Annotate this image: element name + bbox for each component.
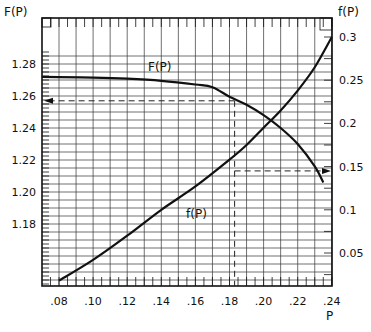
x-tick-label: .08 <box>50 295 68 308</box>
right-axis-tick-labels: 0.30.250.20.150.10.05 <box>339 31 364 260</box>
left-axis-tick-labels: 1.281.261.241.221.201.18 <box>12 58 37 231</box>
x-tick-label: .20 <box>255 295 273 308</box>
right-tick-label: 0.3 <box>339 31 357 44</box>
x-tick-label: .18 <box>221 295 239 308</box>
x-tick-label: .10 <box>84 295 102 308</box>
x-axis-tick-labels: .08.10.12.14.16.18.20.22.24 <box>50 295 340 308</box>
x-tick-label: .24 <box>323 295 341 308</box>
right-axis-title: f(P) <box>338 5 359 19</box>
x-tick-label: .14 <box>153 295 171 308</box>
left-axis-title: F(P) <box>4 5 28 19</box>
right-tick-label: 0.1 <box>339 204 357 217</box>
chart: .08.10.12.14.16.18.20.22.24 1.281.261.24… <box>0 0 371 332</box>
grid-lines <box>42 18 332 286</box>
x-tick-label: .22 <box>289 295 307 308</box>
x-axis-title: P <box>326 309 333 323</box>
left-tick-label: 1.24 <box>12 122 37 135</box>
right-tick-label: 0.25 <box>339 74 364 87</box>
series-F-label: F(P) <box>148 60 172 74</box>
x-tick-label: .16 <box>187 295 205 308</box>
right-tick-label: 0.2 <box>339 117 357 130</box>
x-tick-label: .12 <box>118 295 136 308</box>
left-tick-label: 1.20 <box>12 186 37 199</box>
series-f-label: f(P) <box>186 207 207 221</box>
right-tick-label: 0.05 <box>339 247 364 260</box>
left-tick-label: 1.26 <box>12 90 37 103</box>
right-tick-label: 0.15 <box>339 161 364 174</box>
left-tick-label: 1.28 <box>12 58 37 71</box>
left-tick-label: 1.18 <box>12 218 37 231</box>
left-tick-label: 1.22 <box>12 154 37 167</box>
series-F-curve <box>42 77 323 183</box>
